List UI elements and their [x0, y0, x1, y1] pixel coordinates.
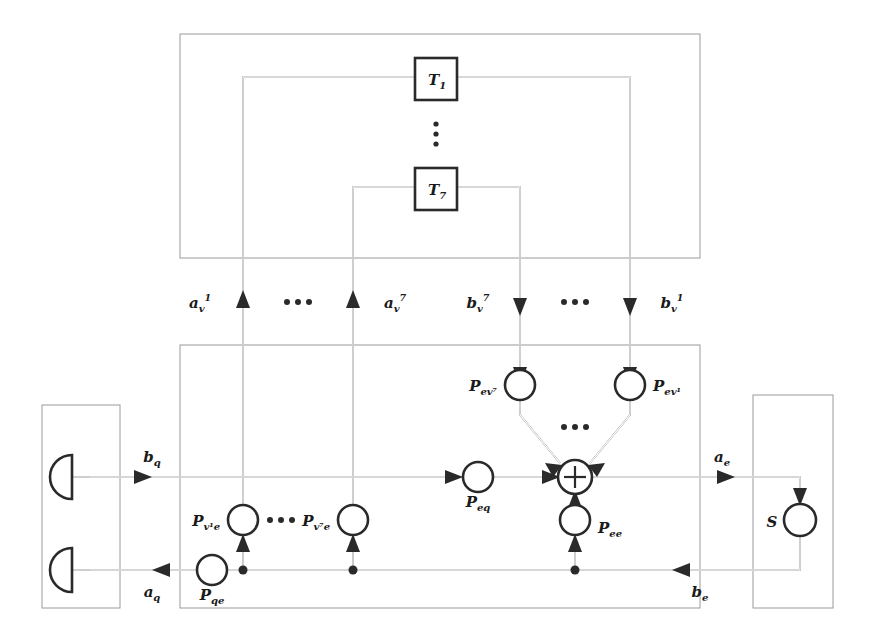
junction-dot — [239, 566, 248, 575]
ellipsis-node-row-icon — [267, 517, 295, 523]
node-P-v7e-label: Pv⁷e — [301, 512, 330, 532]
label-b-v-1: bv1 — [661, 292, 684, 314]
label-b-v-7: bv7 — [467, 292, 490, 314]
node-P-eq-label: Peq — [465, 493, 491, 513]
label-a-q: aq — [144, 583, 161, 603]
node-S-label: S — [767, 513, 778, 531]
junction-dot — [349, 566, 358, 575]
node-P-eq[interactable] — [463, 462, 493, 492]
vertical-ellipsis-icon — [433, 121, 438, 146]
wire-bundle — [72, 77, 800, 570]
node-P-v1e[interactable] — [228, 505, 258, 535]
node-P-ev7[interactable] — [505, 370, 535, 400]
junction-dot — [571, 566, 580, 575]
port-terminal-top[interactable] — [50, 455, 72, 499]
node-P-ev1[interactable] — [615, 370, 645, 400]
node-P-ee[interactable] — [560, 505, 590, 535]
node-P-v7e[interactable] — [338, 505, 368, 535]
label-a-e: ae — [714, 448, 730, 468]
label-b-e: be — [692, 583, 709, 603]
ellipsis-bus-right-icon — [561, 299, 589, 305]
label-a-v-1: av1 — [189, 292, 211, 314]
ellipsis-converge-icon — [561, 424, 589, 430]
diagram-canvas: T1 T7 av1 av7 bv7 bv1 — [0, 0, 872, 643]
node-P-qe[interactable] — [197, 555, 227, 585]
port-terminal-bottom[interactable] — [50, 548, 72, 592]
signal-flow-diagram: T1 T7 av1 av7 bv7 bv1 — [0, 0, 872, 643]
node-P-v1e-label: Pv¹e — [191, 512, 220, 532]
label-a-v-7: av7 — [384, 292, 407, 314]
node-P-ev1-label: Pev¹ — [652, 377, 681, 397]
node-P-qe-label: Pqe — [199, 586, 225, 606]
node-S[interactable] — [784, 504, 816, 536]
node-P-ee-label: Pee — [597, 519, 622, 539]
ellipsis-bus-left-icon — [284, 299, 312, 305]
label-b-q: bq — [143, 448, 161, 468]
node-P-ev7-label: Pev⁷ — [468, 377, 497, 397]
right-group-box — [753, 395, 833, 608]
